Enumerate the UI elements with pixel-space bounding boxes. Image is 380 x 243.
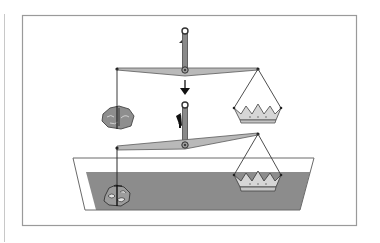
post-knob (182, 28, 188, 34)
balance-post (183, 32, 188, 70)
balance-post (183, 106, 188, 145)
post-knob (182, 102, 188, 108)
balance-diagram (0, 0, 380, 243)
